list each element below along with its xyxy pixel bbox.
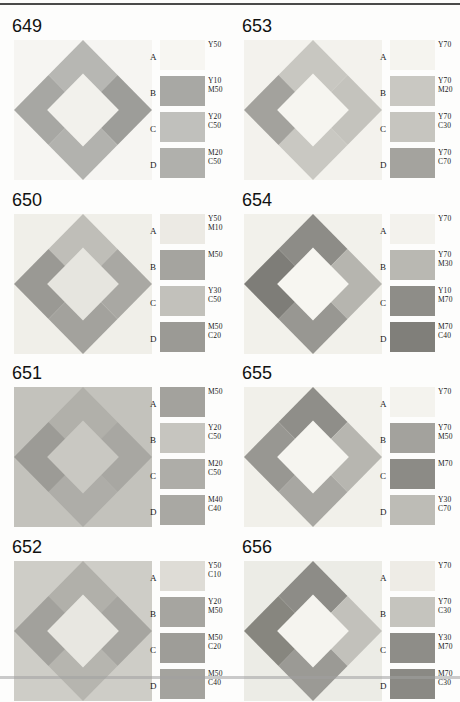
plate-panel: 655ABCDY70Y70M50M70Y30C70	[230, 359, 446, 533]
color-swatch[interactable]	[390, 423, 435, 453]
swatch-ink-value: Y70	[438, 215, 460, 224]
plate-number: 652	[12, 537, 42, 558]
swatch-label: Y70C30	[438, 598, 460, 615]
swatch-ink-value: M70	[438, 643, 460, 652]
swatch-column: Y70Y70M50M70Y30C70	[390, 387, 446, 527]
swatch-column: Y50C10Y20M50M50C20M50C40	[160, 561, 216, 701]
swatch-column: Y50M10M50Y30C50M50C20	[160, 214, 216, 354]
swatch-label: Y70	[438, 562, 460, 571]
color-swatch[interactable]	[160, 286, 205, 316]
swatch-label: Y70C30	[438, 113, 460, 130]
plate-number: 653	[242, 16, 272, 37]
color-swatch[interactable]	[390, 633, 435, 663]
swatch-ink-value: M20	[438, 86, 460, 95]
swatch-ink-value: Y70	[438, 41, 460, 50]
swatch-label: Y30C70	[438, 496, 460, 513]
color-swatch[interactable]	[160, 76, 205, 106]
plate-number: 656	[242, 537, 272, 558]
swatch-label: Y70M20	[438, 77, 460, 94]
swatch-label: Y10M70	[438, 287, 460, 304]
plate-artwork	[14, 40, 152, 180]
plate-artwork	[244, 214, 382, 354]
color-swatch[interactable]	[390, 76, 435, 106]
color-swatch[interactable]	[160, 597, 205, 627]
plate-panel: 654ABCDY70Y70M30Y10M70M70C40	[230, 186, 446, 360]
color-swatch[interactable]	[390, 495, 435, 525]
swatch-label: M70	[438, 460, 460, 469]
swatch-ink-value: C40	[438, 332, 460, 341]
swatch-ink-value: C30	[438, 607, 460, 616]
plate-artwork	[244, 387, 382, 527]
swatch-ink-value: M50	[438, 433, 460, 442]
swatch-ink-value: C30	[438, 122, 460, 131]
color-swatch[interactable]	[160, 250, 205, 280]
plate-artwork	[14, 214, 152, 354]
swatch-label: Y30M70	[438, 634, 460, 651]
scan-artifact-line	[0, 676, 460, 679]
color-swatch[interactable]	[390, 322, 435, 352]
color-swatch[interactable]	[390, 214, 435, 244]
plate-artwork	[14, 561, 152, 701]
swatch-ink-value: C70	[438, 158, 460, 167]
swatch-label: M70C40	[438, 323, 460, 340]
swatch-ink-value: M30	[438, 260, 460, 269]
color-swatch[interactable]	[390, 112, 435, 142]
color-swatch[interactable]	[160, 387, 205, 417]
swatch-label: Y70	[438, 388, 460, 397]
swatch-label: Y70C70	[438, 149, 460, 166]
swatch-label: Y70M30	[438, 251, 460, 268]
swatch-column: Y70Y70M20Y70C30Y70C70	[390, 40, 446, 180]
color-swatch[interactable]	[160, 495, 205, 525]
swatch-ink-value: Y70	[438, 562, 460, 571]
color-swatch[interactable]	[160, 322, 205, 352]
color-swatch[interactable]	[160, 561, 205, 591]
swatch-ink-value: C30	[438, 679, 460, 688]
color-swatch[interactable]	[390, 250, 435, 280]
color-swatch[interactable]	[390, 561, 435, 591]
swatch-ink-value: M70	[438, 296, 460, 305]
plate-artwork	[244, 40, 382, 180]
color-swatch[interactable]	[160, 459, 205, 489]
color-swatch[interactable]	[390, 459, 435, 489]
swatch-label: Y70	[438, 215, 460, 224]
plate-number: 650	[12, 190, 42, 211]
plate-number: 651	[12, 363, 42, 384]
swatch-ink-value: C70	[438, 505, 460, 514]
color-swatch[interactable]	[160, 423, 205, 453]
color-swatch[interactable]	[160, 214, 205, 244]
plate-number: 655	[242, 363, 272, 384]
color-swatch[interactable]	[160, 669, 205, 699]
color-swatch[interactable]	[160, 633, 205, 663]
plate-panel: 649ABCDY50Y10M50Y20C50M20C50	[0, 12, 216, 186]
plate-artwork	[244, 561, 382, 701]
top-rule	[0, 3, 460, 5]
color-swatch[interactable]	[390, 387, 435, 417]
swatch-column: Y50Y10M50Y20C50M20C50	[160, 40, 216, 180]
color-swatch[interactable]	[390, 286, 435, 316]
color-swatch[interactable]	[390, 40, 435, 70]
swatch-ink-value: Y70	[438, 388, 460, 397]
color-swatch[interactable]	[390, 669, 435, 699]
swatch-column: Y70Y70M30Y10M70M70C40	[390, 214, 446, 354]
color-swatch[interactable]	[390, 597, 435, 627]
plate-panel: 653ABCDY70Y70M20Y70C30Y70C70	[230, 12, 446, 186]
swatch-label: Y70	[438, 41, 460, 50]
color-swatch[interactable]	[390, 148, 435, 178]
swatch-column: M50Y20C50M20C50M40C40	[160, 387, 216, 527]
plate-panel: 650ABCDY50M10M50Y30C50M50C20	[0, 186, 216, 360]
plate-grid-page: 649ABCDY50Y10M50Y20C50M20C50653ABCDY70Y7…	[0, 0, 460, 702]
swatch-column: Y70Y70C30Y30M70M70C30	[390, 561, 446, 701]
swatch-ink-value: M70	[438, 460, 460, 469]
plate-number: 654	[242, 190, 272, 211]
plate-artwork	[14, 387, 152, 527]
swatch-label: Y70M50	[438, 424, 460, 441]
color-swatch[interactable]	[160, 148, 205, 178]
plate-panel: 651ABCDM50Y20C50M20C50M40C40	[0, 359, 216, 533]
plate-number: 649	[12, 16, 42, 37]
color-swatch[interactable]	[160, 40, 205, 70]
color-swatch[interactable]	[160, 112, 205, 142]
